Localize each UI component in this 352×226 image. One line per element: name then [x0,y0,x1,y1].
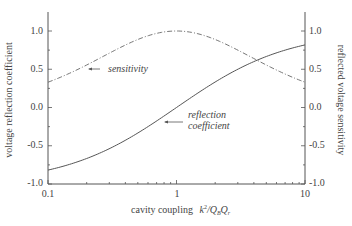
x-label-q: /Q [206,204,218,215]
x-label-text: cavity coupling [131,204,193,215]
ytick-right--0.5: -0.5 [309,139,325,150]
y-axis-label: voltage reflection coefficient [3,42,14,158]
reflection-label-line2: coefficient [188,120,230,131]
y-axis-label-right: reflected voltage sensitivity [336,45,347,156]
ytick-right-0.5: 0.5 [309,63,322,74]
ytick-right--1.0: -1.0 [309,177,325,188]
ytick-right-1.0: 1.0 [309,25,322,36]
xtick-1: 1 [175,188,180,199]
chart: 1.0 0.5 0.0 -0.5 -1.0 1.0 0.5 0.0 -0.5 -… [0,0,352,226]
reflection-label-line1: reflection [188,109,226,120]
reflection-annotation: reflection coefficient [164,109,230,131]
x-label-sub2: r [228,210,231,216]
ytick--0.5: -0.5 [27,139,43,150]
xtick-0.1: 0.1 [42,188,55,199]
x-axis-label: cavity coupling k2/QBQr [131,204,231,216]
right-tick-labels: 1.0 0.5 0.0 -0.5 -1.0 [309,25,325,188]
left-tick-labels: 1.0 0.5 0.0 -0.5 -1.0 [27,25,43,188]
xtick-10: 10 [300,188,310,199]
ytick-1.0: 1.0 [31,25,44,36]
arrow-icon [88,68,92,71]
sensitivity-annotation: sensitivity [88,63,149,74]
ytick--1.0: -1.0 [27,177,43,188]
ytick-0.0: 0.0 [31,101,44,112]
x-tick-labels: 0.1 1 10 [42,188,310,199]
reflection-coefficient-curve [48,45,305,170]
ytick-right-0.0: 0.0 [309,101,322,112]
sensitivity-label: sensitivity [108,63,149,74]
ytick-0.5: 0.5 [31,63,44,74]
arrow-icon [164,121,168,124]
